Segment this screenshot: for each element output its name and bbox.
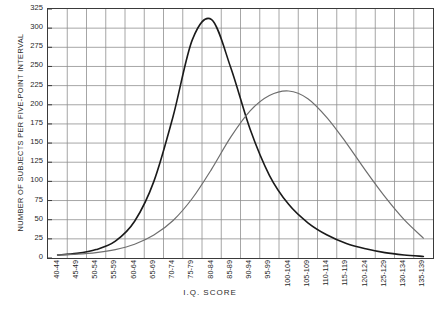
y-tick-label: 150 (30, 138, 43, 146)
x-tick-label: 75-79 (187, 260, 195, 279)
x-tick-label: 45-49 (72, 260, 80, 279)
series-curve (58, 91, 424, 255)
y-tick-label: 300 (30, 23, 43, 31)
x-tick-label-wrap: 85-89 (225, 258, 235, 304)
x-tick-label: 120-124 (361, 260, 369, 287)
x-tick-label-wrap: 120-124 (360, 258, 370, 304)
x-tick-label: 110-114 (322, 260, 330, 286)
x-tick-label-wrap: 125-129 (379, 258, 389, 304)
plot-area (47, 8, 434, 259)
x-tick-label: 115-119 (341, 260, 349, 286)
x-tick-label: 65-69 (149, 260, 157, 279)
x-tick-label: 100-104 (284, 260, 292, 287)
x-axis-title: I.Q. SCORE (150, 288, 270, 297)
x-tick-label-wrap: 100-104 (283, 258, 293, 304)
x-tick-label: 70-74 (168, 260, 176, 279)
x-tick-label: 80-84 (207, 260, 215, 279)
x-tick-label: 105-109 (303, 260, 311, 287)
x-tick-label-wrap: 115-119 (340, 258, 350, 304)
x-tick-label: 55-59 (110, 260, 118, 279)
x-tick-label-wrap: 45-49 (71, 258, 81, 304)
x-tick-label: 95-99 (264, 260, 272, 279)
x-tick-label-wrap: 40-44 (52, 258, 62, 304)
x-tick-label: 60-64 (130, 260, 138, 279)
x-tick-label-wrap: 95-99 (263, 258, 273, 304)
x-tick-label-wrap: 90-94 (244, 258, 254, 304)
x-tick-label-wrap: 130-134 (398, 258, 408, 304)
x-tick-label-wrap: 50-54 (90, 258, 100, 304)
data-curves (48, 9, 433, 258)
y-tick-label: 125 (30, 157, 43, 165)
x-tick-label-wrap: 65-69 (148, 258, 158, 304)
y-tick-label: 25 (35, 234, 43, 242)
x-tick-label-wrap: 75-79 (186, 258, 196, 304)
y-tick-label: 250 (30, 61, 43, 69)
y-tick-label: 200 (30, 100, 43, 108)
chart-figure: NUMBER OF SUBJECTS PER FIVE-POINT INTERV… (0, 0, 440, 313)
y-tick-label: 50 (35, 215, 43, 223)
x-tick-label-wrap: 110-114 (321, 258, 331, 304)
x-tick-label: 40-44 (53, 260, 61, 279)
y-tick-label: 175 (30, 119, 43, 127)
y-axis-tick-labels: 0255075100125150175200225250275300325 (0, 0, 46, 313)
x-tick-label-wrap: 70-74 (167, 258, 177, 304)
x-tick-label: 130-134 (399, 260, 407, 287)
x-tick-label-wrap: 55-59 (109, 258, 119, 304)
series-curve (58, 18, 424, 256)
y-tick-label: 225 (30, 81, 43, 89)
x-tick-label: 85-89 (226, 260, 234, 279)
x-tick-label-wrap: 60-64 (129, 258, 139, 304)
x-tick-label: 90-94 (245, 260, 253, 279)
x-tick-label: 50-54 (91, 260, 99, 279)
x-tick-label-wrap: 105-109 (302, 258, 312, 304)
x-tick-label-wrap: 80-84 (206, 258, 216, 304)
x-axis-tick-labels: 40-4445-4950-5455-5960-6465-6970-7475-79… (47, 258, 432, 308)
y-tick-label: 275 (30, 42, 43, 50)
y-tick-label: 0 (39, 253, 43, 261)
x-tick-label: 125-129 (380, 260, 388, 287)
x-tick-label: 135-139 (418, 260, 426, 287)
x-tick-label-wrap: 135-139 (417, 258, 427, 304)
y-tick-label: 100 (30, 176, 43, 184)
y-tick-label: 75 (35, 196, 43, 204)
figure-caption (18, 306, 318, 313)
y-tick-label: 325 (30, 4, 43, 12)
